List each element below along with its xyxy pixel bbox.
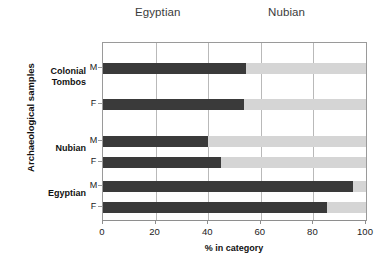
bar-segment-egyptian bbox=[103, 181, 353, 192]
bar-segment-egyptian bbox=[103, 63, 246, 74]
bar-row bbox=[103, 202, 366, 213]
bar-segment-egyptian bbox=[103, 136, 208, 147]
bar-segment-nubian bbox=[208, 136, 366, 147]
x-tick bbox=[365, 220, 366, 224]
plot-inner bbox=[103, 43, 366, 220]
bar-segment-nubian bbox=[221, 157, 366, 168]
bar-segment-nubian bbox=[353, 181, 366, 192]
group-label-nubian-text: Nubian bbox=[14, 143, 86, 154]
x-axis-line bbox=[102, 220, 366, 221]
x-tick bbox=[102, 220, 103, 224]
y-axis-title: Archaeological samples bbox=[25, 33, 36, 203]
bar-segment-egyptian bbox=[103, 99, 244, 110]
category-header-egyptian: Egyptian bbox=[135, 6, 181, 18]
x-tick bbox=[207, 220, 208, 224]
x-tick-label: 20 bbox=[140, 226, 170, 237]
bar-row bbox=[103, 99, 366, 110]
group-label-colonial-tombos-line1: Colonial bbox=[14, 66, 86, 77]
x-tick-label: 60 bbox=[245, 226, 275, 237]
x-axis-title: % in category bbox=[102, 243, 366, 253]
chart-figure: Egyptian Nubian Archaeological samples C… bbox=[0, 0, 384, 271]
group-label-egyptian: Egyptian bbox=[14, 188, 86, 199]
bar-row bbox=[103, 157, 366, 168]
bar-row bbox=[103, 181, 366, 192]
group-label-nubian: Nubian bbox=[14, 143, 86, 154]
bar-segment-egyptian bbox=[103, 157, 221, 168]
group-label-egyptian-text: Egyptian bbox=[14, 188, 86, 199]
x-tick-label: 100 bbox=[350, 226, 380, 237]
x-tick bbox=[155, 220, 156, 224]
x-tick bbox=[260, 220, 261, 224]
plot-area bbox=[102, 42, 367, 221]
group-label-colonial-tombos-line2: Tombos bbox=[14, 77, 86, 88]
x-tick-label: 40 bbox=[192, 226, 222, 237]
bar-segment-nubian bbox=[246, 63, 366, 74]
group-label-colonial-tombos: Colonial Tombos bbox=[14, 66, 86, 88]
bar-row bbox=[103, 63, 366, 74]
bar-segment-nubian bbox=[327, 202, 366, 213]
x-tick-label: 80 bbox=[297, 226, 327, 237]
category-header-nubian: Nubian bbox=[268, 6, 305, 18]
bar-row bbox=[103, 136, 366, 147]
bar-segment-egyptian bbox=[103, 202, 327, 213]
bar-segment-nubian bbox=[244, 99, 366, 110]
x-tick bbox=[312, 220, 313, 224]
x-tick-label: 0 bbox=[87, 226, 117, 237]
